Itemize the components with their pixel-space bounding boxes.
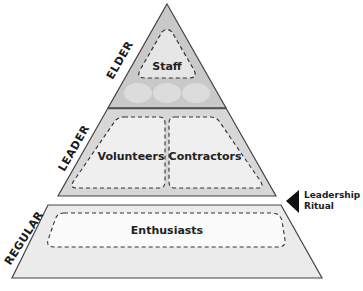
volunteers-label: Volunteers (97, 150, 165, 163)
placeholder-ellipse (153, 83, 181, 103)
pyramid-diagram: Staff Volunteers Contractors Enthusiasts… (0, 0, 363, 291)
transition-label-line2: Ritual (304, 201, 334, 211)
arrow-left-icon (286, 190, 299, 213)
transition-label-line1: Leadership (304, 190, 361, 200)
enthusiasts-label: Enthusiasts (131, 224, 204, 237)
placeholder-ellipse (124, 83, 152, 103)
placeholder-ellipse (182, 83, 210, 103)
staff-label: Staff (152, 60, 182, 73)
contractors-label: Contractors (169, 150, 242, 163)
